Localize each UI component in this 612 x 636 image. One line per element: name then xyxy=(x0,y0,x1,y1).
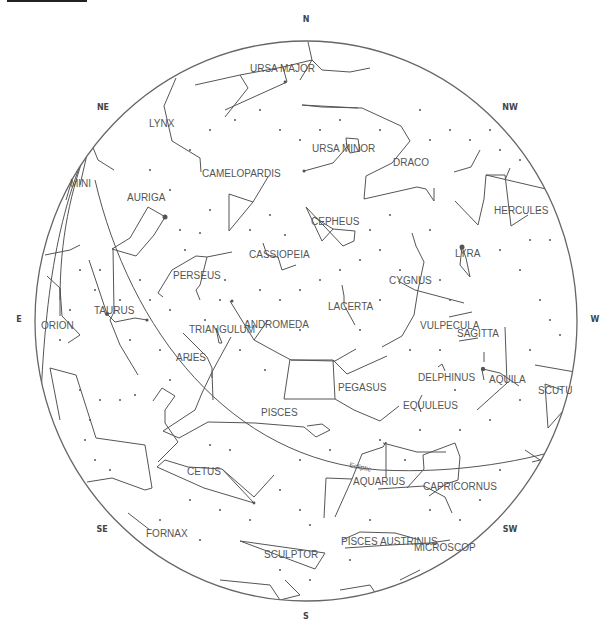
constellation-label-sculptor[interactable]: SCULPTOR xyxy=(264,549,318,560)
constellation-label-hercules[interactable]: HERCULES xyxy=(494,205,549,216)
constellation-label-lyra[interactable]: LYRA xyxy=(455,248,481,259)
constellation-label-cassiopeia[interactable]: CASSIOPEIA xyxy=(249,249,310,260)
constellation-label-fornax[interactable]: FORNAX xyxy=(146,528,188,539)
constellation-label-orion[interactable]: ORION xyxy=(41,320,74,331)
constellation-label-aquila[interactable]: AQUILA xyxy=(489,374,526,385)
constellation-label-auriga[interactable]: AURIGA xyxy=(127,192,166,203)
compass-e: E xyxy=(16,315,21,324)
constellation-label-camelopardis[interactable]: CAMELOPARDIS xyxy=(202,168,281,179)
compass-sw: SW xyxy=(503,525,518,534)
constellation-label-perseus[interactable]: PERSEUS xyxy=(173,270,221,281)
constellation-label-sagitta[interactable]: SAGITTA xyxy=(457,328,499,339)
constellation-label-lynx[interactable]: LYNX xyxy=(149,118,175,129)
constellation-label-cetus[interactable]: CETUS xyxy=(187,466,221,477)
constellation-label-draco[interactable]: DRACO xyxy=(393,157,429,168)
constellation-label-delphinus[interactable]: DELPHINUS xyxy=(418,372,476,383)
sky-chart[interactable]: NNEESESSWNWW URSA MAJORLYNXURSA MINORDRA… xyxy=(0,0,612,636)
constellation-label-pegasus[interactable]: PEGASUS xyxy=(338,382,387,393)
constellation-label-equuleus[interactable]: EQUULEUS xyxy=(403,400,458,411)
ecliptic-label: Ecliptic xyxy=(349,461,373,474)
constellation-label-microscop[interactable]: MICROSCOP xyxy=(414,542,476,553)
constellation-label-mini[interactable]: MINI xyxy=(70,178,91,189)
constellation-label-pisces[interactable]: PISCES xyxy=(261,407,298,418)
constellation-label-cygnus[interactable]: CYGNUS xyxy=(389,275,432,286)
constellation-label-lacerta[interactable]: LACERTA xyxy=(328,301,374,312)
constellation-label-capricornus[interactable]: CAPRICORNUS xyxy=(423,481,497,492)
constellation-label-aries[interactable]: ARIES xyxy=(176,352,206,363)
constellation-label-ursa-major[interactable]: URSA MAJOR xyxy=(250,63,315,74)
compass-ne: NE xyxy=(97,103,109,112)
compass-se: SE xyxy=(96,525,107,534)
constellation-label-andromeda[interactable]: ANDROMEDA xyxy=(244,319,309,330)
compass-nw: NW xyxy=(502,103,518,112)
constellation-lines xyxy=(40,42,580,600)
compass-w: W xyxy=(591,315,600,324)
constellation-label-cepheus[interactable]: CEPHEUS xyxy=(311,216,360,227)
constellation-labels: URSA MAJORLYNXURSA MINORDRACOCAMELOPARDI… xyxy=(41,63,572,560)
constellation-label-aquarius[interactable]: AQUARIUS xyxy=(353,476,406,487)
constellation-label-ursa-minor[interactable]: URSA MINOR xyxy=(312,143,375,154)
compass-s: S xyxy=(303,612,309,621)
constellation-label-scutu[interactable]: SCUTU xyxy=(538,385,572,396)
compass-n: N xyxy=(303,15,310,24)
constellation-label-taurus[interactable]: TAURUS xyxy=(94,305,135,316)
